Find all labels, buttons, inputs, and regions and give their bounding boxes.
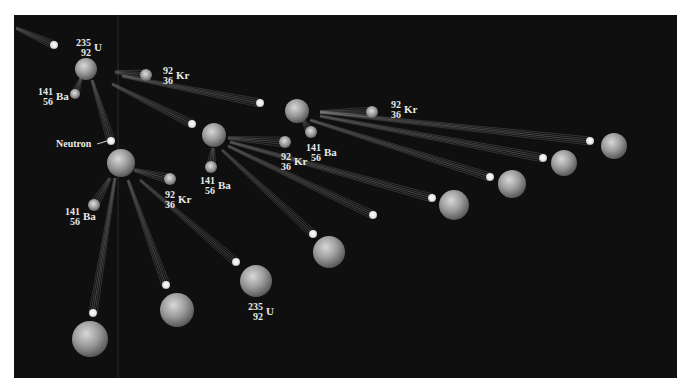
- trail-line: [89, 178, 114, 313]
- element-symbol: Kr: [178, 194, 191, 204]
- neutron: [369, 211, 377, 219]
- element-symbol: U: [266, 306, 274, 316]
- motion-trails: [16, 27, 591, 314]
- trail-line: [112, 85, 191, 126]
- fragment-nucleus: [366, 106, 378, 118]
- neutron: [232, 258, 240, 266]
- neutron: [586, 137, 594, 145]
- element-symbol: Ba: [218, 180, 231, 190]
- trail-line: [16, 27, 55, 43]
- neutron: [162, 281, 170, 289]
- trail-line: [93, 178, 115, 313]
- fragment-nucleus: [305, 126, 317, 138]
- element-symbol: Ba: [56, 91, 69, 101]
- element-symbol: Ba: [324, 147, 337, 157]
- neutron: [309, 230, 317, 238]
- neutron: [486, 173, 494, 181]
- uranium-nucleus: [202, 123, 226, 147]
- uranium-nucleus: [439, 190, 469, 220]
- atomic-number: 36: [157, 200, 175, 210]
- atomic-number: 56: [35, 97, 53, 107]
- atomic-number: 36: [383, 110, 401, 120]
- trail-line: [140, 180, 237, 261]
- isotope-label-u: 23592U: [73, 38, 91, 58]
- trail-line: [111, 85, 190, 128]
- isotope-label-ba: 14156Ba: [62, 207, 80, 227]
- uranium-nucleus: [72, 321, 108, 357]
- uranium-nucleus: [498, 170, 526, 198]
- atomic-number: 36: [155, 76, 173, 86]
- fragment-nucleus: [279, 136, 291, 148]
- trail-line: [16, 28, 54, 45]
- trail-line: [310, 119, 490, 175]
- trail-line: [113, 83, 194, 120]
- uranium-nucleus: [285, 99, 309, 123]
- atomic-number: 56: [62, 217, 80, 227]
- neutron: [107, 137, 115, 145]
- fragment-nucleus: [205, 161, 217, 173]
- atomic-number: 92: [245, 312, 263, 322]
- fission-chain-diagram: [0, 0, 687, 389]
- uranium-nucleus: [551, 150, 577, 176]
- trail-line: [92, 80, 111, 141]
- neutron: [428, 194, 436, 202]
- atomic-number: 56: [197, 186, 215, 196]
- neutron: [188, 120, 196, 128]
- element-symbol: Kr: [404, 104, 417, 114]
- isotope-label-kr: 9236Kr: [155, 66, 173, 86]
- trail-line: [122, 77, 259, 107]
- uranium-nucleus: [601, 133, 627, 159]
- trail-line: [16, 29, 53, 49]
- element-symbol: Ba: [83, 211, 96, 221]
- element-symbol: Kr: [176, 70, 189, 80]
- isotope-label-kr: 9236Kr: [157, 190, 175, 210]
- uranium-nucleus: [160, 293, 194, 327]
- neutron: [539, 154, 547, 162]
- trail-line: [91, 80, 109, 141]
- trail-line: [320, 117, 543, 160]
- element-symbol: U: [94, 42, 102, 52]
- fragment-nucleus: [140, 69, 152, 81]
- uranium-nucleus: [240, 265, 272, 297]
- trail-line: [16, 29, 53, 47]
- neutron-label-pointer: [97, 141, 107, 144]
- isotope-label-kr: 9236Kr: [383, 100, 401, 120]
- neutron-label: Neutron: [56, 138, 91, 149]
- neutron: [256, 99, 264, 107]
- trail-line: [93, 80, 113, 141]
- isotope-label-u: 23592U: [245, 302, 263, 322]
- trail-line: [320, 112, 590, 141]
- fragment-nucleus: [164, 173, 176, 185]
- fragment-nucleus: [70, 89, 80, 99]
- trail-line: [320, 116, 543, 158]
- atomic-number: 36: [273, 162, 291, 172]
- isotope-label-ba: 14156Ba: [197, 176, 215, 196]
- uranium-nucleus: [75, 58, 97, 80]
- isotope-label-ba: 14156Ba: [35, 87, 53, 107]
- trail-line: [320, 113, 590, 145]
- uranium-nucleus: [313, 236, 345, 268]
- trail-line: [112, 83, 193, 122]
- trail-line: [320, 115, 544, 154]
- neutron: [89, 309, 97, 317]
- uranium-nucleus: [107, 149, 135, 177]
- trail-line: [122, 76, 260, 103]
- neutron: [50, 41, 58, 49]
- isotope-label-kr: 9236Kr: [273, 152, 291, 172]
- atomic-number: 92: [73, 48, 91, 58]
- element-symbol: Kr: [294, 156, 307, 166]
- trail-line: [228, 137, 285, 138]
- trail-line: [16, 27, 55, 41]
